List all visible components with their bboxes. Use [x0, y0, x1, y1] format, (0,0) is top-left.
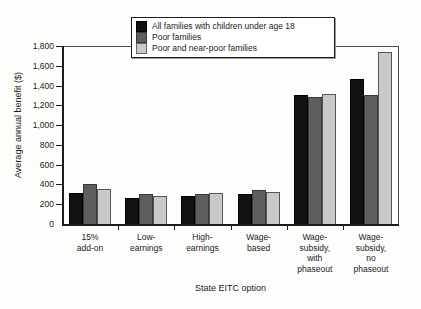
bar [181, 196, 195, 224]
bar [350, 79, 364, 224]
bar [209, 193, 223, 224]
bar [252, 190, 266, 224]
x-tick-mark [174, 225, 175, 230]
bar [69, 193, 83, 224]
bar [266, 192, 280, 224]
y-tick-label: 600 [40, 161, 54, 170]
legend-item: Poor families [136, 32, 329, 43]
x-tick-mark [118, 225, 119, 230]
x-tick-mark [343, 225, 344, 230]
bar [195, 194, 209, 224]
y-axis-labels: 1,8001,6001,4001,2001,0008006004002000 [0, 0, 54, 309]
bar-group [118, 46, 174, 224]
legend-label: All families with children under age 18 [152, 22, 295, 31]
y-tick-label: 1,600 [33, 62, 54, 71]
legend-swatch-icon [136, 32, 147, 43]
y-tick-label: 0 [49, 220, 54, 229]
x-axis-labels: 15% add-onLow- earningsHigh- earningsWag… [62, 232, 399, 282]
bar [97, 189, 111, 224]
legend-label: Poor and near-poor families [152, 44, 257, 53]
y-tick-label: 200 [40, 200, 54, 209]
x-tick-label: Wage- based [231, 232, 287, 282]
x-tick-label: High- earnings [174, 232, 230, 282]
bar-group [231, 46, 287, 224]
y-tick-label: 1,800 [33, 42, 54, 51]
legend-label: Poor families [152, 33, 201, 42]
bar [139, 194, 153, 224]
legend-item: Poor and near-poor families [136, 43, 329, 54]
x-tick-mark [287, 225, 288, 230]
x-tick-label: 15% add-on [62, 232, 118, 282]
chart-legend: All families with children under age 18P… [131, 17, 335, 58]
bar-group [287, 46, 343, 224]
bar [83, 184, 97, 224]
bar-group [174, 46, 230, 224]
bar [322, 94, 336, 224]
x-tick-label: Low- earnings [118, 232, 174, 282]
bar-group [62, 46, 118, 224]
y-tick-label: 1,200 [33, 101, 54, 110]
bar-group [343, 46, 399, 224]
y-axis-title: Average annual benefit ($) [13, 45, 23, 205]
bar-chart-figure: 1,8001,6001,4001,2001,0008006004002000 A… [0, 0, 421, 309]
y-tick-label: 400 [40, 180, 54, 189]
bar [238, 194, 252, 224]
legend-swatch-icon [136, 21, 147, 32]
bar [308, 97, 322, 224]
bar-groups [62, 46, 399, 224]
legend-item: All families with children under age 18 [136, 21, 329, 32]
bar [378, 52, 392, 224]
x-tick-label: Wage- subsidy, with phaseout [287, 232, 343, 282]
y-tick-label: 1,400 [33, 82, 54, 91]
bar [364, 95, 378, 224]
bar [125, 198, 139, 224]
y-tick-label: 800 [40, 141, 54, 150]
legend-swatch-icon [136, 43, 147, 54]
bar [294, 95, 308, 224]
y-tick-label: 1,000 [33, 121, 54, 130]
bar [153, 196, 167, 224]
x-tick-mark [231, 225, 232, 230]
x-tick-label: Wage- subsidy, no phaseout [343, 232, 399, 282]
x-axis-title: State EITC option [0, 283, 421, 293]
